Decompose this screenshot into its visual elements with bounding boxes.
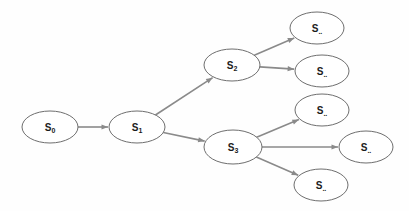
node-label-subscript-s0: 0 — [51, 126, 55, 133]
node-label-subscript-s2: 2 — [233, 64, 237, 71]
arrowhead-s3-to-leaf4 — [332, 144, 339, 149]
node-leaf5[interactable]: S.. — [294, 169, 348, 201]
node-leaf4[interactable]: S.. — [339, 131, 393, 163]
edge-s1-to-s2 — [155, 78, 212, 115]
arrowhead-s2-to-leaf2 — [288, 66, 295, 71]
node-leaf2[interactable]: S.. — [295, 55, 349, 87]
arrowhead-s3-to-leaf3 — [292, 120, 299, 125]
node-label-subscript-leaf2: .. — [323, 70, 327, 77]
node-label-subscript-leaf5: .. — [322, 184, 326, 191]
diagram-canvas: S0S1S2S3S..S..S..S..S.. — [0, 0, 409, 211]
edge-s2-to-leaf1 — [254, 38, 294, 55]
node-s3[interactable]: S3 — [204, 130, 262, 164]
arrowhead-s1-to-s2 — [206, 78, 213, 84]
arrowhead-s3-to-leaf5 — [291, 170, 298, 175]
state-tree-graph: S0S1S2S3S..S..S..S..S.. — [0, 0, 409, 211]
arrowhead-s2-to-leaf1 — [287, 38, 294, 43]
node-label-subscript-s1: 1 — [138, 126, 142, 133]
nodes-layer: S0S1S2S3S..S..S..S..S.. — [22, 12, 393, 201]
node-label-subscript-leaf3: .. — [323, 109, 327, 116]
node-leaf1[interactable]: S.. — [290, 12, 344, 44]
node-label-subscript-s3: 3 — [234, 146, 238, 153]
node-leaf3[interactable]: S.. — [295, 94, 349, 126]
edge-s3-to-leaf3 — [257, 120, 299, 138]
edge-s3-to-leaf5 — [256, 157, 298, 175]
node-label-subscript-leaf4: .. — [367, 146, 371, 153]
node-s0[interactable]: S0 — [22, 111, 78, 143]
node-s2[interactable]: S2 — [204, 49, 260, 81]
node-label-subscript-leaf1: .. — [318, 27, 322, 34]
node-s1[interactable]: S1 — [109, 111, 165, 143]
arrowhead-s0-to-s1 — [102, 124, 109, 129]
